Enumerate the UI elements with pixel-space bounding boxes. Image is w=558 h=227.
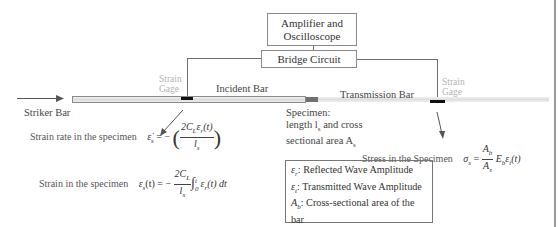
num-a: 2C	[181, 121, 193, 132]
bridge-circuit-label: Bridge Circuit	[277, 53, 340, 66]
paren-open: (	[173, 125, 180, 150]
strain-rate-denominator: ls	[180, 138, 214, 154]
strain-rate-fraction: 2CLεr(t)ls	[180, 121, 214, 154]
strain-gage-left-line2: Gage	[159, 84, 182, 94]
strain-gage-right	[430, 100, 445, 103]
specimen-line2: length ls and cross	[286, 119, 363, 135]
integral-limits: t0	[195, 177, 199, 193]
strain-denominator: ls	[174, 185, 192, 201]
specimen-line2-tail: and cross	[321, 119, 363, 130]
specimen-line2-text: length l	[286, 119, 318, 130]
stress-denominator: As	[482, 160, 494, 176]
wire-right-horizontal	[357, 59, 438, 60]
stress-eq-sign: =	[471, 153, 482, 164]
strain-gage-right-line1: Strain	[442, 77, 465, 87]
strain-fraction: 2CLls	[174, 168, 192, 201]
integrand-tail: (t) dt	[207, 178, 227, 189]
legend-item: εr: Reflected Wave Amplitude	[291, 164, 427, 181]
stress-den-sub: s	[489, 166, 492, 174]
legend-text: : Reflected Wave Amplitude	[298, 164, 413, 175]
strain-gage-left-line1: Strain	[159, 74, 182, 84]
striker-arrow-shaft	[17, 98, 59, 99]
striker-bar-label: Striker Bar	[24, 107, 70, 118]
strain-gage-left-label: Strain Gage	[159, 74, 182, 94]
paren-close: )	[214, 125, 221, 150]
wire-left-horizontal	[187, 58, 261, 59]
strain-gage-right-line2: Gage	[442, 87, 465, 97]
legend-symbol: E	[291, 226, 297, 227]
strain-rate-label: Strain rate in the specimen	[30, 131, 137, 142]
strain-rate-eq-sign: = −	[154, 131, 173, 142]
specimen	[306, 97, 318, 102]
legend-item: Ab: Cross-sectional area of the bar	[291, 197, 427, 226]
legend-text: : Transmitted Wave Amplitude	[297, 181, 422, 192]
strain-den-sub: s	[182, 191, 185, 199]
strain-num-a-sub: L	[186, 174, 190, 182]
strain-rate-equation: Strain rate in the specimen ε̇s = − (2CL…	[30, 121, 221, 154]
strain-equation: Strain in the specimen εs(t) = − 2CLls∫t…	[39, 168, 227, 201]
legend-item: Eb: Young's Modulus of the Bar	[291, 226, 427, 227]
specimen-line1: Specimen:	[286, 107, 363, 119]
striker-arrow-head-icon	[56, 95, 64, 102]
strain-gage-right-label: Strain Gage	[442, 77, 465, 97]
wire-left-vertical	[187, 58, 188, 98]
strain-num-a: 2C	[175, 168, 187, 179]
legend-text: : Young's Modulus of the Bar	[301, 226, 421, 227]
strain-lhs-tail: (t) = −	[145, 178, 173, 189]
num-c: (t)	[203, 121, 212, 132]
transmission-bar-label: Transmission Bar	[340, 89, 414, 100]
specimen-label: Specimen: length ls and cross sectional …	[286, 107, 363, 151]
legend-text: : Cross-sectional area of the bar	[291, 197, 414, 225]
legend-item: εt: Transmitted Wave Amplitude	[291, 181, 427, 198]
incident-bar-label: Incident Bar	[216, 83, 268, 94]
specimen-line3-sub: s	[353, 141, 356, 149]
strain-numerator: 2CL	[174, 168, 192, 185]
strain-gage-left	[181, 97, 193, 100]
wire-right-vertical	[437, 59, 438, 101]
int-lower: 0	[195, 185, 199, 193]
amplifier-label-line2: Oscilloscope	[281, 30, 343, 43]
stress-num-sub: b	[489, 149, 493, 157]
strain-rate-numerator: 2CLεr(t)	[180, 121, 214, 138]
strain-label: Strain in the specimen	[39, 178, 128, 189]
stress-fraction: AbAs	[482, 143, 494, 176]
amplifier-label-line1: Amplifier and	[281, 17, 343, 30]
right-gage-arrow-icon	[433, 110, 449, 140]
den-sub: s	[197, 144, 200, 152]
specimen-line3-text: sectional area A	[286, 135, 353, 146]
symbol-legend-box: εr: Reflected Wave Amplitude εt: Transmi…	[285, 160, 433, 223]
stress-tail-c: (t)	[511, 153, 520, 164]
stress-tail-a: E	[493, 153, 502, 164]
specimen-line3: sectional area As	[286, 135, 363, 151]
right-border-line	[554, 0, 556, 227]
int-upper: t	[195, 177, 199, 185]
stress-numerator: Ab	[482, 143, 494, 160]
bridge-circuit-box: Bridge Circuit	[261, 50, 357, 68]
amplifier-oscilloscope-box: Amplifier and Oscilloscope	[267, 13, 357, 46]
